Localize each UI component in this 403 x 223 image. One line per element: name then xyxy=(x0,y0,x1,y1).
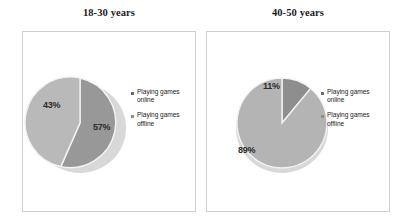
legend-label-online: Playing games online xyxy=(137,88,189,104)
legend-label-offline: Playing games offline xyxy=(327,111,379,127)
legend-item-offline-right[interactable]: Playing games offline xyxy=(321,111,385,127)
slice-label-online-right: 11% xyxy=(263,81,280,91)
legend-right: Playing games online Playing games offli… xyxy=(321,88,385,135)
legend-swatch-online-icon xyxy=(321,92,324,95)
legend-item-online-left[interactable]: Playing games online xyxy=(131,88,193,104)
slice-label-online-left: 43% xyxy=(43,100,60,110)
chart-panel-left: 43% 57% Playing games online Playing gam… xyxy=(22,31,196,212)
slice-label-offline-left: 57% xyxy=(93,122,110,132)
legend-label-online: Playing games online xyxy=(327,88,379,104)
legend-item-offline-left[interactable]: Playing games offline xyxy=(131,111,193,127)
panel-title-left: 18-30 years xyxy=(22,7,196,18)
legend-swatch-offline-icon xyxy=(131,115,134,118)
legend-item-online-right[interactable]: Playing games online xyxy=(321,88,385,104)
legend-swatch-online-icon xyxy=(131,92,134,95)
legend-left: Playing games online Playing games offli… xyxy=(131,88,193,135)
legend-swatch-offline-icon xyxy=(321,115,324,118)
slice-label-offline-right: 89% xyxy=(238,145,255,155)
panel-title-right: 40-50 years xyxy=(206,7,390,18)
legend-label-offline: Playing games offline xyxy=(137,111,189,127)
chart-panel-right: 11% 89% Playing games online Playing gam… xyxy=(206,31,390,212)
